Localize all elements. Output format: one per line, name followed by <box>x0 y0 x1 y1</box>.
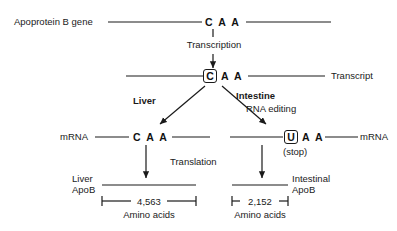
transcript-rest-codon: A A <box>221 70 243 82</box>
mrna-right-label: mRNA <box>360 131 388 142</box>
liver-branch-label: Liver <box>133 95 156 106</box>
mrna-left-codon: C A A <box>133 131 168 143</box>
rna-editing-diagram: Apoprotein B gene C A A Transcription C … <box>0 0 397 231</box>
liver-apob-label-line1: Liver <box>72 173 93 184</box>
stop-codon-note: (stop) <box>283 146 307 157</box>
translation-label: Translation <box>170 156 217 167</box>
intestinal-apob-label-line2: ApoB <box>292 184 315 195</box>
mrna-left-label: mRNA <box>60 131 88 142</box>
gene-codon: C A A <box>205 16 240 28</box>
intestine-branch-label: Intestine <box>236 90 275 101</box>
intestinal-apob-label-line1: Intestinal <box>292 173 330 184</box>
intestinal-amino-acid-count: 2,152 <box>235 196 285 207</box>
liver-amino-acid-count: 4,563 <box>119 196 179 207</box>
liver-amino-acid-units: Amino acids <box>110 209 188 220</box>
mrna-boxed-base-u: U <box>284 130 298 144</box>
mrna-right-rest-codon: A A <box>302 131 324 143</box>
transcript-boxed-base-c: C <box>203 69 217 83</box>
diagram-lines <box>0 0 397 231</box>
intestinal-amino-acid-units: Amino acids <box>221 209 299 220</box>
gene-left-label: Apoprotein B gene <box>14 16 93 27</box>
transcription-label: Transcription <box>176 39 252 50</box>
rna-editing-label: RNA editing <box>246 103 296 114</box>
liver-apob-label-line2: ApoB <box>72 184 95 195</box>
transcript-right-label: Transcript <box>331 70 373 81</box>
